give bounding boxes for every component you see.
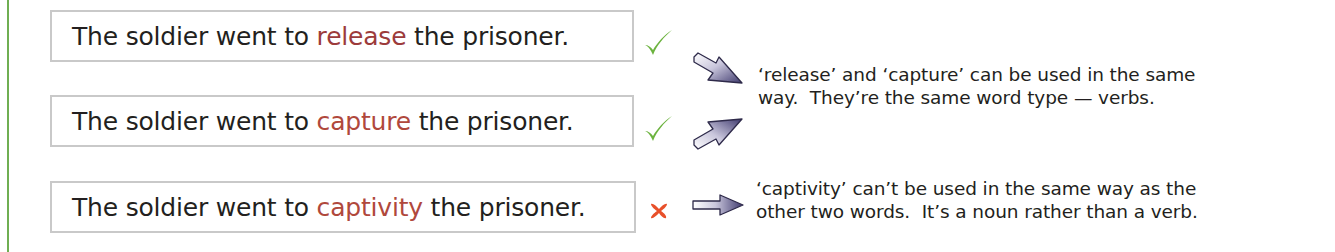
- explanation-line: other two words. It’s a noun rather than…: [756, 200, 1198, 223]
- arrow-up-right-icon: [690, 112, 746, 152]
- explanation-line: ‘captivity’ can’t be used in the same wa…: [756, 177, 1198, 200]
- cross-icon: [648, 200, 670, 222]
- sentence-text-before: The soldier went to: [72, 22, 317, 51]
- highlighted-word: release: [317, 22, 407, 51]
- sentence-text-before: The soldier went to: [72, 107, 317, 136]
- sentence-box-capture: The soldier went to capture the prisoner…: [50, 95, 634, 147]
- sentence-text-after: the prisoner.: [406, 22, 569, 51]
- arrow-right-icon: [690, 192, 746, 218]
- highlighted-word: capture: [317, 107, 411, 136]
- left-accent-rule: [7, 0, 9, 252]
- highlighted-word: captivity: [317, 193, 423, 222]
- check-icon: [642, 114, 674, 146]
- explanation-verbs: ‘release’ and ‘capture’ can be used in t…: [758, 63, 1195, 109]
- sentence-text-before: The soldier went to: [72, 193, 317, 222]
- explanation-line: way. They’re the same word type — verbs.: [758, 86, 1195, 109]
- sentence-text-after: the prisoner.: [423, 193, 586, 222]
- sentence-box-release: The soldier went to release the prisoner…: [50, 10, 634, 62]
- sentence-text-after: the prisoner.: [411, 107, 574, 136]
- explanation-noun: ‘captivity’ can’t be used in the same wa…: [756, 177, 1198, 223]
- check-icon: [642, 28, 674, 60]
- sentence-box-captivity: The soldier went to captivity the prison…: [50, 181, 636, 233]
- arrow-down-right-icon: [690, 50, 746, 90]
- explanation-line: ‘release’ and ‘capture’ can be used in t…: [758, 63, 1195, 86]
